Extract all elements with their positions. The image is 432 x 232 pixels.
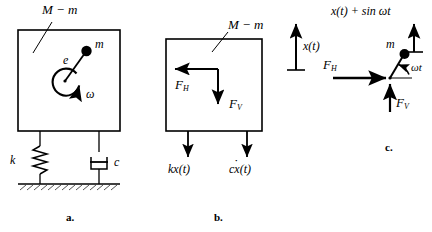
panel-b-FH-symbol: F — [175, 77, 183, 92]
panel-c-FH-label: FH — [323, 58, 337, 73]
panel-c-pivot — [388, 76, 391, 79]
panel-c-rotating-mass — [400, 49, 410, 59]
figure-canvas: M − m e m ω k c a. M − m x(t) FH FV kx(t… — [0, 0, 432, 232]
panel-c-FV-label: FV — [396, 96, 409, 111]
panel-b-body-label: M − m — [228, 18, 264, 31]
panel-c-displacement-label: x(t) + sin ωt — [331, 5, 391, 17]
panel-b-damper-argument: (t) — [240, 162, 251, 176]
panel-a-caption: a. — [66, 212, 74, 223]
panel-a-spring-coil — [33, 146, 47, 174]
panel-b-damper-velocity-term: ẋ — [234, 163, 239, 175]
panel-b-damper-variable: x — [234, 162, 239, 176]
panel-c-mass-label: m — [386, 38, 395, 50]
panel-a-eccentricity-label: e — [63, 54, 68, 66]
panel-a-rotating-mass — [81, 46, 91, 56]
panel-b-damper-force-label: cẋ(t) — [229, 163, 251, 175]
panel-a-damper-label: c — [114, 156, 119, 168]
panel-a-spring-label: k — [10, 154, 15, 166]
panel-c-angle-arc — [399, 65, 410, 75]
panel-c-eccentric-arm — [390, 56, 403, 78]
figure-vector-layer — [0, 0, 432, 232]
panel-b-spring-force-label: kx(t) — [168, 163, 190, 175]
panel-b-FV-subscript: V — [237, 103, 242, 112]
panel-b-FV-symbol: F — [229, 96, 237, 111]
panel-b-FV-label: FV — [229, 97, 242, 112]
panel-a-pivot — [63, 79, 66, 82]
panel-a-mass-label: m — [95, 38, 104, 50]
panel-a-graphics — [18, 22, 120, 190]
panel-b-caption: b. — [214, 212, 223, 223]
panel-a-housing-box — [18, 30, 120, 131]
panel-c-FH-subscript: H — [331, 64, 337, 73]
panel-b-FH-subscript: H — [183, 84, 189, 93]
panel-c-graphics — [333, 24, 423, 112]
panel-a-damper-cup — [91, 157, 107, 169]
panel-c-angle-label: ωt — [411, 62, 422, 73]
panel-c-FH-symbol: F — [323, 57, 331, 72]
panel-c-FV-subscript: V — [404, 102, 409, 111]
panel-b-FH-label: FH — [175, 78, 189, 93]
panel-a-angular-velocity-label: ω — [86, 88, 94, 100]
panel-a-body-label: M − m — [42, 3, 78, 16]
panel-c-caption: c. — [385, 142, 393, 153]
panel-a-ground-hatch — [20, 185, 117, 190]
panel-b-displacement-label: x(t) — [303, 40, 320, 52]
panel-c-FV-symbol: F — [396, 95, 404, 110]
